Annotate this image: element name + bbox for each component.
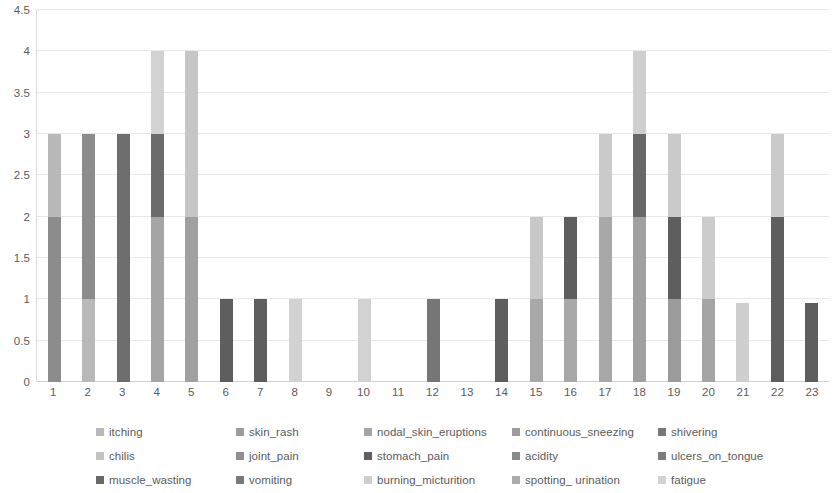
x-tick-label: 22: [760, 386, 794, 406]
bar-stack[interactable]: [82, 134, 95, 382]
legend-item[interactable]: muscle_wasting: [96, 474, 236, 486]
x-tick-label: 9: [312, 386, 346, 406]
bar-slot: [519, 10, 553, 382]
legend-item[interactable]: chilis: [96, 450, 236, 462]
legend-label: ulcers_on_tongue: [671, 450, 763, 462]
bar-segment[interactable]: [702, 299, 715, 382]
bar-stack[interactable]: [736, 303, 749, 382]
x-tick-label: 6: [208, 386, 242, 406]
legend-item[interactable]: itching: [96, 426, 236, 438]
legend-item[interactable]: continuous_sneezing: [512, 426, 658, 438]
bar-segment[interactable]: [736, 303, 749, 382]
bar-segment[interactable]: [633, 134, 646, 217]
legend-item[interactable]: joint_pain: [236, 450, 364, 462]
x-tick-label: 7: [243, 386, 277, 406]
bar-segment[interactable]: [633, 51, 646, 134]
legend-item[interactable]: shivering: [658, 426, 796, 438]
bar-segment[interactable]: [530, 217, 543, 300]
bar-slot: [691, 10, 725, 382]
legend-item[interactable]: spotting_ urination: [512, 474, 658, 486]
legend-swatch-icon: [658, 476, 666, 484]
bar-segment[interactable]: [185, 217, 198, 382]
bar-slot: [175, 10, 209, 382]
legend-swatch-icon: [96, 452, 104, 460]
bar-segment[interactable]: [220, 299, 233, 382]
legend-item[interactable]: stomach_pain: [364, 450, 512, 462]
bar-stack[interactable]: [151, 51, 164, 382]
bar-segment[interactable]: [82, 134, 95, 299]
bar-segment[interactable]: [185, 51, 198, 216]
bar-stack[interactable]: [702, 217, 715, 382]
legend-swatch-icon: [364, 476, 372, 484]
bar-stack[interactable]: [771, 134, 784, 382]
bar-segment[interactable]: [289, 299, 302, 382]
bar-stack[interactable]: [289, 299, 302, 382]
legend-item[interactable]: vomiting: [236, 474, 364, 486]
bar-segment[interactable]: [564, 299, 577, 382]
bar-slot: [485, 10, 519, 382]
bar-stack[interactable]: [254, 299, 267, 382]
bar-stack[interactable]: [530, 217, 543, 382]
bar-segment[interactable]: [564, 217, 577, 300]
legend-item[interactable]: ulcers_on_tongue: [658, 450, 796, 462]
bar-segment[interactable]: [254, 299, 267, 382]
bar-segment[interactable]: [599, 134, 612, 217]
legend-item[interactable]: nodal_skin_eruptions: [364, 426, 512, 438]
bar-segment[interactable]: [495, 299, 508, 382]
legend-label: itching: [109, 426, 143, 438]
bar-slot: [278, 10, 312, 382]
bar-segment[interactable]: [633, 217, 646, 382]
bar-slot: [347, 10, 381, 382]
legend-item[interactable]: skin_rash: [236, 426, 364, 438]
legend-swatch-icon: [364, 428, 372, 436]
legend-label: muscle_wasting: [109, 474, 192, 486]
legend-swatch-icon: [236, 476, 244, 484]
legend-label: nodal_skin_eruptions: [377, 426, 487, 438]
bar-stack[interactable]: [117, 134, 130, 382]
bar-segment[interactable]: [702, 217, 715, 300]
legend-label: spotting_ urination: [525, 474, 620, 486]
bar-stack[interactable]: [185, 51, 198, 382]
bar-stack[interactable]: [564, 217, 577, 382]
bar-segment[interactable]: [771, 134, 784, 217]
bar-segment[interactable]: [668, 299, 681, 382]
legend-label: acidity: [525, 450, 558, 462]
bar-stack[interactable]: [633, 51, 646, 382]
x-tick-label: 8: [277, 386, 311, 406]
bar-segment[interactable]: [530, 299, 543, 382]
bar-stack[interactable]: [48, 134, 61, 382]
x-tick-label: 14: [484, 386, 518, 406]
bar-segment[interactable]: [82, 299, 95, 382]
y-tick-label: 3.5: [14, 87, 30, 99]
bar-stack[interactable]: [599, 134, 612, 382]
bar-stack[interactable]: [495, 299, 508, 382]
bar-segment[interactable]: [151, 134, 164, 217]
bar-segment[interactable]: [668, 217, 681, 300]
legend-item[interactable]: fatigue: [658, 474, 796, 486]
bar-segment[interactable]: [48, 217, 61, 382]
bar-slot: [588, 10, 622, 382]
legend-item[interactable]: acidity: [512, 450, 658, 462]
bar-segment[interactable]: [427, 299, 440, 382]
bar-segment[interactable]: [358, 299, 371, 382]
bar-segment[interactable]: [805, 303, 818, 382]
x-tick-label: 23: [795, 386, 829, 406]
bar-stack[interactable]: [220, 299, 233, 382]
bar-stack[interactable]: [668, 134, 681, 382]
bar-segment[interactable]: [151, 51, 164, 134]
y-tick-label: 0: [24, 376, 31, 388]
chart-legend: itchingskin_rashnodal_skin_eruptionscont…: [96, 420, 796, 492]
bar-slot: [450, 10, 484, 382]
bar-stack[interactable]: [805, 303, 818, 382]
bar-segment[interactable]: [771, 217, 784, 382]
x-tick-label: 18: [622, 386, 656, 406]
bar-stack[interactable]: [358, 299, 371, 382]
bar-segment[interactable]: [117, 134, 130, 382]
bar-segment[interactable]: [599, 217, 612, 382]
bar-segment[interactable]: [48, 134, 61, 217]
bar-stack[interactable]: [427, 299, 440, 382]
bar-slot: [313, 10, 347, 382]
legend-item[interactable]: burning_micturition: [364, 474, 512, 486]
bar-segment[interactable]: [668, 134, 681, 217]
bar-segment[interactable]: [151, 217, 164, 382]
